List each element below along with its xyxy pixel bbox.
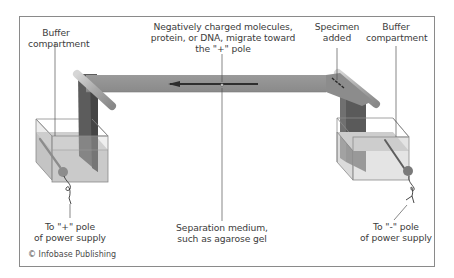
label-line: protein, or DNA, migrate toward (142, 32, 304, 43)
label-line: of power supply (356, 232, 436, 243)
label-line: compartment (28, 38, 84, 49)
label-line: Negatively charged molecules, (142, 21, 304, 32)
copyright-credit: © Infobase Publishing (28, 250, 116, 259)
label-line: Separation medium, (172, 222, 272, 233)
label-line: compartment (366, 32, 426, 43)
label-separation-medium: Separation medium, such as agarose gel (172, 222, 272, 244)
label-line: Buffer (28, 27, 84, 38)
label-minus-pole: To "-" pole of power supply (356, 221, 436, 243)
label-line: such as agarose gel (172, 233, 272, 244)
label-line: Specimen (311, 21, 363, 32)
label-line: To "+" pole (30, 221, 110, 232)
label-line: Buffer (366, 21, 426, 32)
label-specimen: Specimen added (311, 21, 363, 43)
label-line: To "-" pole (356, 221, 436, 232)
left-electrode-terminal (58, 167, 68, 177)
label-line: added (311, 32, 363, 43)
label-buffer-right: Buffer compartment (366, 21, 426, 43)
label-line: the "+" pole (142, 43, 304, 54)
right-electrode-terminal (403, 166, 413, 176)
label-line: of power supply (30, 232, 110, 243)
label-migration: Negatively charged molecules, protein, o… (142, 21, 304, 54)
label-buffer-left: Buffer compartment (28, 27, 84, 49)
label-plus-pole: To "+" pole of power supply (30, 221, 110, 243)
